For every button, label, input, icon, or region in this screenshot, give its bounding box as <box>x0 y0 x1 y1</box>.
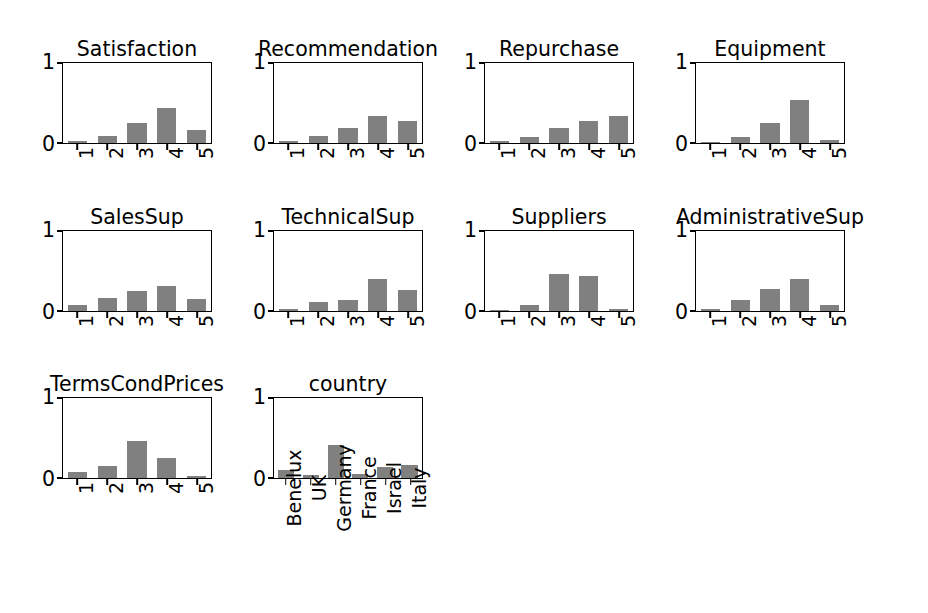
x-tick-label: 4 <box>800 147 819 159</box>
plot-area <box>273 230 423 312</box>
x-tick: 4 <box>588 312 590 318</box>
bar <box>68 141 87 143</box>
bar <box>127 291 146 311</box>
x-tick: Germany <box>335 479 337 485</box>
bar <box>309 136 328 143</box>
x-tick: 4 <box>166 312 168 318</box>
x-tick: Italy <box>410 479 412 485</box>
plot-area <box>484 230 634 312</box>
x-tick-label: 2 <box>107 482 126 494</box>
x-tick-label: France <box>361 456 380 519</box>
bar-series <box>485 63 633 143</box>
y-tick-mark <box>57 62 62 64</box>
x-tick-label: 5 <box>619 147 638 159</box>
y-tick-label: 1 <box>253 387 266 408</box>
x-tick-label: 4 <box>378 315 397 327</box>
x-tick: 1 <box>709 312 711 318</box>
bar <box>731 300 750 311</box>
bar <box>127 123 146 143</box>
x-tick-label: 3 <box>559 315 578 327</box>
x-tick-label: 2 <box>318 147 337 159</box>
subplot-equipment: Equipment0112345 <box>695 62 845 144</box>
bar <box>701 309 720 311</box>
bar <box>549 274 568 311</box>
plot-area <box>62 62 212 144</box>
bar <box>520 305 539 311</box>
figure-canvas: Satisfaction0112345Recommendation0112345… <box>0 0 928 613</box>
x-axis: 12345 <box>484 144 634 150</box>
x-tick: 4 <box>799 312 801 318</box>
subplot-technicalsup: TechnicalSup0112345 <box>273 230 423 312</box>
plot-area <box>273 62 423 144</box>
x-axis: 12345 <box>62 312 212 318</box>
y-tick-label: 0 <box>675 134 688 155</box>
x-tick-label: 1 <box>710 147 729 159</box>
x-tick: 2 <box>106 479 108 485</box>
bar <box>579 276 598 311</box>
x-tick: 5 <box>618 312 620 318</box>
y-tick-label: 0 <box>253 134 266 155</box>
subplot-title: Repurchase <box>499 39 619 60</box>
y-tick-label: 0 <box>253 302 266 323</box>
x-tick: 1 <box>287 312 289 318</box>
plot-area <box>695 230 845 312</box>
x-tick: 2 <box>528 144 530 150</box>
x-tick-label: 5 <box>830 315 849 327</box>
x-tick-label: 4 <box>167 147 186 159</box>
x-tick: 1 <box>498 312 500 318</box>
x-tick-label: 2 <box>107 147 126 159</box>
plot-area <box>484 62 634 144</box>
x-tick-label: 2 <box>529 315 548 327</box>
x-tick-label: 5 <box>197 482 216 494</box>
x-tick-label: 3 <box>770 315 789 327</box>
subplot-satisfaction: Satisfaction0112345 <box>62 62 212 144</box>
bar <box>398 290 417 311</box>
x-tick-label: 4 <box>589 147 608 159</box>
x-tick: Benelux <box>285 479 287 485</box>
x-tick: 4 <box>377 144 379 150</box>
bar-series <box>485 231 633 311</box>
subplot-title: Satisfaction <box>77 39 197 60</box>
bar <box>490 310 509 312</box>
y-tick-label: 1 <box>675 52 688 73</box>
bar <box>820 140 839 143</box>
plot-area <box>695 62 845 144</box>
x-tick-label: 5 <box>830 147 849 159</box>
x-tick-label: 1 <box>77 147 96 159</box>
x-tick-label: 3 <box>770 147 789 159</box>
bar <box>279 309 298 311</box>
x-tick-label: 1 <box>288 147 307 159</box>
x-tick: 3 <box>558 144 560 150</box>
subplot-title: Recommendation <box>258 39 438 60</box>
x-tick: 3 <box>136 479 138 485</box>
subplot-title: country <box>309 374 387 395</box>
x-tick: 5 <box>196 312 198 318</box>
y-tick-mark <box>268 230 273 232</box>
subplot-title: Equipment <box>714 39 825 60</box>
bar <box>157 108 176 143</box>
bar-series <box>696 63 844 143</box>
y-tick-mark <box>690 230 695 232</box>
x-tick: 1 <box>76 479 78 485</box>
y-tick-label: 1 <box>42 52 55 73</box>
x-tick: 4 <box>377 312 379 318</box>
x-tick: 2 <box>106 144 108 150</box>
x-tick: 3 <box>347 312 349 318</box>
x-tick: 1 <box>498 144 500 150</box>
x-tick-label: 2 <box>740 315 759 327</box>
x-tick-label: 1 <box>77 482 96 494</box>
y-tick-label: 0 <box>675 302 688 323</box>
x-tick: 1 <box>287 144 289 150</box>
bar <box>609 309 628 311</box>
subplot-title: Suppliers <box>511 207 606 228</box>
x-tick: 2 <box>528 312 530 318</box>
y-tick-mark <box>57 230 62 232</box>
y-tick-label: 1 <box>42 220 55 241</box>
y-tick-label: 0 <box>42 134 55 155</box>
x-tick-label: UK <box>311 475 330 501</box>
bar <box>790 279 809 311</box>
x-tick: 5 <box>618 144 620 150</box>
x-tick-label: Israel <box>386 462 405 514</box>
x-axis: 12345 <box>62 144 212 150</box>
x-tick-label: 2 <box>107 315 126 327</box>
